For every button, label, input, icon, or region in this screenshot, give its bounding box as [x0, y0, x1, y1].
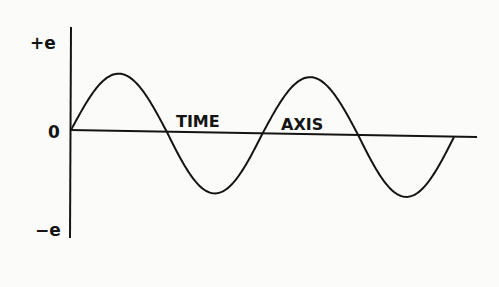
y-axis: [70, 27, 71, 238]
label-zero: 0: [48, 122, 60, 142]
label-axis: AXIS: [281, 115, 323, 134]
label-minus-e: −e: [35, 220, 61, 240]
label-plus-e: +e: [30, 33, 56, 53]
sine-wave-diagram: +e 0 −e TIME AXIS: [0, 0, 499, 287]
time-axis: [70, 130, 477, 137]
label-time: TIME: [176, 112, 220, 131]
